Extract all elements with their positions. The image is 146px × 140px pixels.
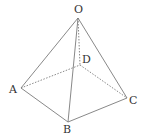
edge-ab [21,88,68,122]
edge-dc [80,65,127,98]
vertex-label-a: A [8,83,18,96]
vertex-label-d: D [82,53,91,66]
edge-bc [68,98,127,122]
edge-ob [68,18,78,122]
edge-oa [21,18,78,88]
vertex-label-c: C [129,94,137,107]
vertex-label-b: B [63,123,71,136]
pyramid-diagram: O D A B C [0,0,146,140]
edge-od [78,18,80,65]
vertex-label-o: O [74,3,83,16]
